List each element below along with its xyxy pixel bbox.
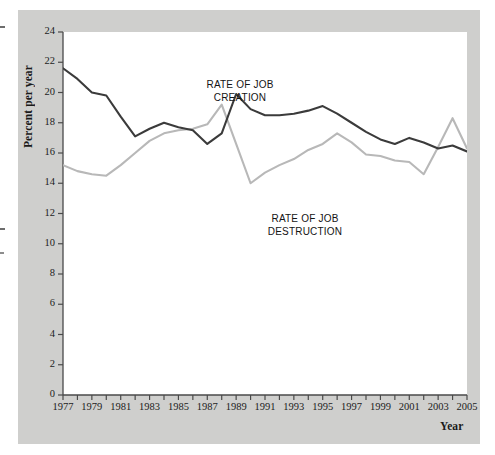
x-axis-title: Year (440, 420, 463, 432)
x-axis-ticks (63, 395, 467, 400)
y-axis-tick-label: 6 (25, 297, 55, 308)
y-axis-tick-label: 2 (25, 358, 55, 369)
y-axis-tick-label: 0 (25, 388, 55, 399)
y-axis-tick-label: 20 (25, 86, 55, 97)
y-axis-ticks (58, 32, 63, 395)
y-axis-tick-label: 14 (25, 176, 55, 187)
y-axis-tick-label: 10 (25, 237, 55, 248)
y-axis-tick-label: 4 (25, 328, 55, 339)
x-axis-tick-label: 2005 (449, 401, 485, 412)
y-axis-tick-label: 22 (25, 55, 55, 66)
y-axis-tick-label: 24 (25, 25, 55, 36)
y-axis-tick-label: 8 (25, 267, 55, 278)
y-axis-tick-label: 12 (25, 207, 55, 218)
y-axis-tick-label: 16 (25, 146, 55, 157)
annotation-job-creation: RATE OF JOB CREATION (180, 78, 300, 104)
y-axis-tick-label: 18 (25, 116, 55, 127)
figure-container: Percent per year Year 024681012141618202… (0, 0, 495, 455)
annotation-job-destruction: RATE OF JOB DESTRUCTION (245, 212, 365, 238)
